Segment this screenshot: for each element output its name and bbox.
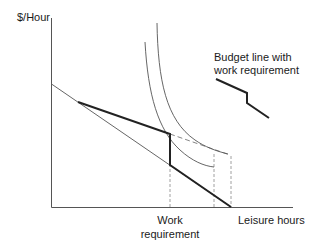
x-axis-label: Leisure hours — [238, 214, 305, 227]
legend-sample-line — [216, 79, 269, 118]
indifference-curve-lower — [145, 42, 214, 167]
y-axis-label: $/Hour — [17, 11, 50, 24]
indifference-curve-higher — [157, 23, 228, 154]
legend-label-line1: Budget line with — [214, 51, 292, 64]
diagram-canvas — [0, 0, 317, 246]
work-requirement-label-line2: requirement — [130, 228, 210, 241]
work-requirement-label-line1: Work — [140, 214, 200, 227]
legend-label-line2: work requirement — [214, 64, 299, 77]
